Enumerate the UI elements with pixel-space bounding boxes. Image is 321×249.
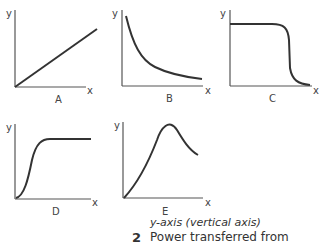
graph-e-plot	[105, 110, 215, 210]
axis-caption: y-axis (vertical axis)	[150, 216, 261, 229]
graph-a: y x A	[0, 0, 110, 110]
graph-d: y x D	[0, 110, 110, 210]
y-axis-label: y	[112, 9, 118, 19]
x-axis-label: x	[205, 198, 211, 208]
graph-c: y x C	[210, 0, 321, 110]
graph-d-plot	[0, 110, 110, 210]
x-axis-label: x	[87, 86, 93, 96]
question-number: 2	[132, 230, 141, 245]
y-axis-label: y	[114, 121, 120, 131]
y-axis-label: y	[6, 9, 12, 19]
question-text: Power transferred from	[150, 230, 289, 244]
graph-b-plot	[105, 0, 215, 110]
y-axis-label: y	[6, 123, 12, 133]
x-axis-label: x	[92, 198, 98, 208]
graph-label: B	[166, 94, 173, 104]
graph-c-plot	[210, 0, 321, 110]
graph-e: y x E	[105, 110, 215, 210]
y-axis-label: y	[220, 9, 226, 19]
graph-label: A	[55, 95, 62, 105]
x-axis-label: x	[313, 86, 319, 96]
graph-label: D	[52, 207, 60, 217]
graph-label: C	[269, 94, 276, 104]
graph-b: y x B	[105, 0, 215, 110]
